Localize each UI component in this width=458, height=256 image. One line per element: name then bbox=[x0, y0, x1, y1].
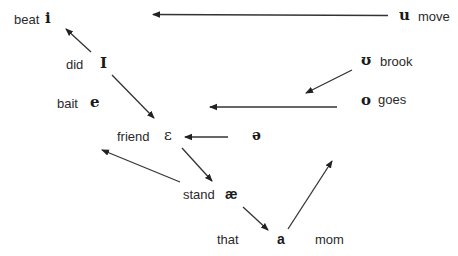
symbol-schwa: ə bbox=[252, 128, 261, 142]
word-did: did bbox=[66, 58, 83, 71]
symbol-ae: æ bbox=[225, 187, 237, 201]
symbol-upsilon: ʊ bbox=[361, 53, 371, 68]
symbol-o: o bbox=[361, 93, 371, 108]
symbol-u: u bbox=[399, 8, 410, 23]
symbol-epsilon: ε bbox=[164, 128, 172, 143]
word-stand: stand bbox=[183, 188, 215, 201]
word-bait: bait bbox=[57, 97, 78, 110]
word-friend: friend bbox=[117, 130, 150, 143]
arrow-ae-to-e bbox=[102, 150, 180, 182]
word-beat: beat bbox=[14, 13, 39, 26]
arrow-a-up-right bbox=[288, 161, 332, 229]
word-that: that bbox=[217, 233, 239, 246]
arrow-ae-to-a bbox=[243, 207, 268, 230]
arrow-I-to-i bbox=[66, 29, 91, 52]
symbol-i: i bbox=[45, 11, 51, 26]
word-move: move bbox=[418, 10, 450, 23]
symbol-e: e bbox=[90, 95, 100, 110]
symbol-I: I bbox=[100, 56, 107, 71]
arrow-uh-to-mid bbox=[306, 70, 352, 93]
arrows-layer bbox=[0, 0, 458, 256]
arrow-eh-to-ae bbox=[182, 148, 212, 181]
word-brook: brook bbox=[380, 55, 413, 68]
vowel-shift-diagram: beat i did I bait e friend ε stand æ tha… bbox=[0, 0, 458, 256]
symbol-a: a bbox=[277, 232, 285, 246]
word-mom: mom bbox=[315, 233, 344, 246]
arrow-u-to-i bbox=[153, 15, 388, 16]
arrow-I-to-eh bbox=[112, 75, 154, 118]
word-goes: goes bbox=[378, 93, 406, 106]
